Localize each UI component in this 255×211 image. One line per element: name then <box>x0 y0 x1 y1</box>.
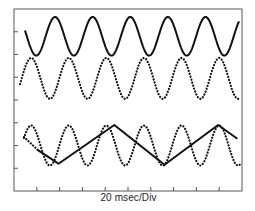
frame <box>14 9 242 191</box>
trace-1-solid-sine <box>25 17 239 56</box>
trace-2-dotted-sine <box>20 58 239 99</box>
x-axis-label: 20 msec/Div <box>0 192 255 203</box>
trace-3-solid-triangle <box>38 125 238 165</box>
traces <box>20 17 240 166</box>
trace-3-dotted-sine <box>24 126 240 166</box>
oscilloscope-chart <box>0 0 255 211</box>
trace-3-triangle-lead-in <box>24 137 38 150</box>
